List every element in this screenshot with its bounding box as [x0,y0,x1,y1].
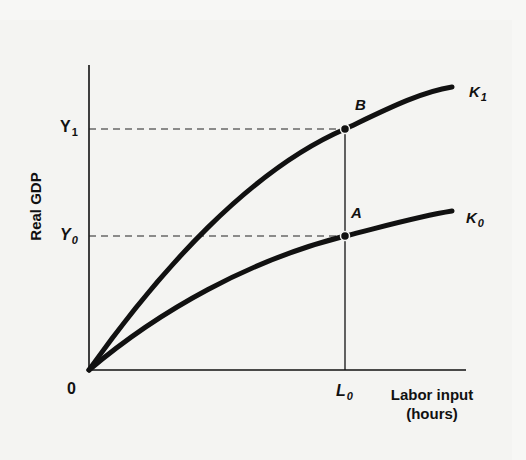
y1-tick-label: Y1 [60,118,78,136]
chart-figure: Real GDP Y1 Y0 0 L0 Labor input (hours) … [0,0,526,460]
y1-subscript: 1 [72,126,78,138]
point-b-marker [341,125,350,134]
y-axis-label: Real GDP [27,167,44,247]
x-axis-label-line2: (hours) [374,404,490,423]
y0-subscript: 0 [72,234,78,246]
k1-main: K [469,83,480,100]
x-axis-label-line1: Labor input [374,385,490,404]
x-axis-label: Labor input (hours) [374,385,490,423]
k0-subscript: 0 [478,217,484,229]
l0-subscript: 0 [347,390,353,402]
k0-curve [89,211,452,370]
y1-main: Y [60,118,71,135]
k0-main: K [466,209,477,226]
y0-main: Y [60,226,71,243]
k0-curve-label: K0 [466,209,484,226]
origin-label: 0 [67,380,76,398]
k1-curve-label: K1 [469,83,487,100]
point-b-label: B [355,96,366,113]
y0-tick-label: Y0 [60,226,78,244]
point-a-marker [341,232,350,241]
l0-tick-label: L0 [336,382,353,400]
l0-main: L [336,382,346,399]
point-a-label: A [351,204,362,221]
k1-subscript: 1 [481,91,487,103]
